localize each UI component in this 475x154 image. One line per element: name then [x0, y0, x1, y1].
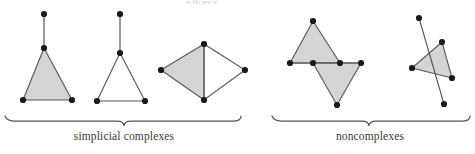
vertex: [69, 97, 75, 103]
shape-two-triangles-meeting-at-point: [287, 18, 364, 108]
vertex: [142, 98, 148, 104]
triangle-face-upper: [290, 21, 340, 63]
vertex: [310, 18, 316, 24]
vertex: [117, 50, 123, 56]
figure-panel: p th gy y: [0, 0, 475, 154]
triangle-outline: [204, 44, 245, 100]
vertex: [441, 101, 447, 107]
vertex: [334, 102, 340, 108]
triangle-face-lower: [313, 63, 361, 105]
vertex: [94, 98, 100, 104]
vertex: [439, 39, 445, 45]
shape-triangle-crossed-by-segment: [409, 15, 455, 107]
vertex: [117, 11, 123, 17]
triangle-face: [412, 42, 452, 78]
vertex: [310, 60, 316, 66]
vertex: [287, 60, 293, 66]
triangle-face: [161, 44, 204, 100]
brace-path: [272, 116, 470, 126]
vertex: [358, 60, 364, 66]
vertex: [449, 75, 455, 81]
shape-kite-half-filled: [158, 41, 248, 103]
vertex: [20, 97, 26, 103]
vertex: [158, 67, 164, 73]
shape-hollow-triangle-with-pendant-edge: [94, 11, 148, 104]
triangle-face: [23, 48, 72, 100]
vertex: [201, 97, 207, 103]
vertex: [41, 45, 47, 51]
vertex: [409, 65, 415, 71]
shape-filled-triangle-with-pendant-edge: [20, 11, 75, 103]
vertex: [242, 67, 248, 73]
caption-simplicial-complexes: simplicial complexes: [0, 130, 248, 142]
brace-noncomplexes: [272, 116, 470, 126]
brace-simplicial-complexes: [5, 116, 241, 126]
vertex: [41, 11, 47, 17]
vertex: [337, 60, 343, 66]
vertex: [201, 41, 207, 47]
caption-noncomplexes: noncomplexes: [268, 130, 472, 142]
brace-path: [5, 116, 241, 126]
triangle-outline: [97, 53, 145, 101]
vertex: [416, 15, 422, 21]
